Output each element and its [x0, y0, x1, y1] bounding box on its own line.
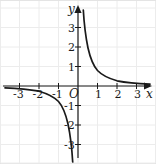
y-tick-label-neg2: -2: [64, 120, 75, 131]
y-tick-label-neg3: -3: [64, 140, 75, 151]
x-tick-label-2: 2: [115, 89, 122, 100]
graph-figure: -3 -2 -1 1 2 3 3 2 1 -1 -2 -3 O y x: [0, 0, 156, 164]
x-axis-label: x: [146, 88, 153, 100]
x-tick-label-1: 1: [95, 89, 102, 100]
graph-canvas: [0, 0, 156, 164]
x-tick-label-neg2: -2: [33, 89, 44, 100]
origin-label: O: [69, 88, 79, 100]
y-tick-label-neg1: -1: [64, 101, 75, 112]
y-tick-label-2: 2: [68, 42, 75, 53]
x-tick-label-3: 3: [134, 89, 141, 100]
x-tick-label-neg3: -3: [13, 89, 24, 100]
y-tick-label-3: 3: [68, 23, 75, 34]
x-tick-label-neg1: -1: [52, 89, 63, 100]
y-tick-label-1: 1: [68, 62, 75, 73]
y-axis-label: y: [68, 3, 75, 15]
